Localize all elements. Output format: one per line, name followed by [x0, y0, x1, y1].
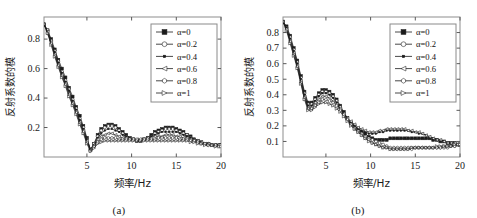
chart-a-svg: 51015200.20.40.60.8反射系数的模频率/Hzα=0α=0.2α=… [0, 0, 238, 200]
svg-text:0.7: 0.7 [267, 42, 280, 53]
svg-text:5: 5 [84, 160, 89, 171]
svg-text:0.6: 0.6 [267, 58, 280, 69]
svg-text:0.3: 0.3 [267, 105, 280, 116]
chart-b-svg: 51015200.10.20.30.40.50.60.70.8反射系数的模频率/… [239, 0, 477, 200]
svg-text:0.6: 0.6 [28, 63, 41, 74]
svg-text:α=0: α=0 [177, 27, 191, 37]
svg-text:α=0.8: α=0.8 [177, 76, 197, 86]
svg-text:α=0: α=0 [416, 27, 430, 37]
svg-text:α=0.4: α=0.4 [416, 52, 437, 62]
svg-text:5: 5 [323, 160, 328, 171]
svg-text:α=0.8: α=0.8 [416, 76, 436, 86]
svg-text:α=0.4: α=0.4 [177, 52, 198, 62]
svg-text:α=0.6: α=0.6 [177, 64, 198, 74]
panel-b-caption: (b) [239, 204, 477, 216]
chart-panel-a: 51015200.20.40.60.8反射系数的模频率/Hzα=0α=0.2α=… [0, 0, 238, 218]
svg-text:15: 15 [171, 160, 181, 171]
figure-container: 51015200.20.40.60.8反射系数的模频率/Hzα=0α=0.2α=… [0, 0, 477, 218]
svg-text:频率/Hz: 频率/Hz [114, 177, 151, 189]
svg-text:频率/Hz: 频率/Hz [353, 177, 390, 189]
svg-text:α=0.2: α=0.2 [177, 39, 197, 49]
svg-text:α=0.2: α=0.2 [416, 39, 436, 49]
svg-text:0.8: 0.8 [267, 27, 280, 38]
svg-text:0.1: 0.1 [267, 136, 280, 147]
svg-text:0.2: 0.2 [267, 120, 280, 131]
svg-text:0.5: 0.5 [267, 74, 280, 85]
svg-text:反射系数的模: 反射系数的模 [243, 57, 255, 117]
svg-text:α=1: α=1 [416, 88, 430, 98]
svg-text:20: 20 [216, 160, 226, 171]
svg-text:反射系数的模: 反射系数的模 [4, 57, 16, 117]
svg-text:10: 10 [366, 160, 376, 171]
panel-a-caption: (a) [0, 204, 238, 216]
svg-text:α=1: α=1 [177, 88, 191, 98]
svg-text:0.8: 0.8 [28, 33, 41, 44]
svg-text:0.2: 0.2 [28, 122, 41, 133]
svg-text:0.4: 0.4 [28, 92, 41, 103]
svg-text:10: 10 [127, 160, 137, 171]
svg-text:15: 15 [410, 160, 420, 171]
svg-text:α=0.6: α=0.6 [416, 64, 437, 74]
svg-text:0.4: 0.4 [267, 89, 280, 100]
chart-panel-b: 51015200.10.20.30.40.50.60.70.8反射系数的模频率/… [239, 0, 477, 218]
svg-text:20: 20 [455, 160, 465, 171]
